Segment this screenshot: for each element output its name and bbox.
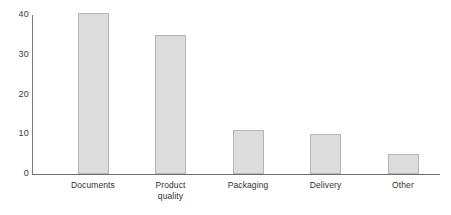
y-tick-label: 20	[3, 90, 29, 99]
bar-chart-figure: 010203040 DocumentsProductqualityPackagi…	[0, 0, 451, 215]
y-tick-10: 10	[0, 129, 29, 138]
y-tick-label: 10	[3, 129, 29, 138]
y-tick-label: 30	[3, 50, 29, 59]
bar-packaging[interactable]	[233, 130, 264, 174]
x-label-documents: Documents	[53, 180, 133, 191]
x-label-packaging: Packaging	[208, 180, 288, 191]
x-label-line: Packaging	[208, 180, 288, 191]
bar-other[interactable]	[388, 154, 419, 174]
y-tick-30: 30	[0, 50, 29, 59]
bar-documents[interactable]	[78, 13, 109, 174]
bar-delivery[interactable]	[310, 134, 341, 174]
x-label-other: Other	[363, 180, 443, 191]
x-label-line: Documents	[53, 180, 133, 191]
x-label-product-quality: Productquality	[131, 180, 211, 201]
y-tick-0: 0	[0, 169, 29, 178]
x-label-line: quality	[131, 191, 211, 202]
x-axis-line	[32, 174, 440, 175]
x-label-delivery: Delivery	[286, 180, 366, 191]
x-label-line: Other	[363, 180, 443, 191]
bar-product-quality[interactable]	[155, 35, 186, 174]
y-tick-label: 0	[3, 169, 29, 178]
y-tick-20: 20	[0, 90, 29, 99]
x-label-line: Product	[131, 180, 211, 191]
x-label-line: Delivery	[286, 180, 366, 191]
y-tick-label: 40	[3, 10, 29, 19]
y-tick-40: 40	[0, 10, 29, 19]
plot-area: 010203040 DocumentsProductqualityPackagi…	[0, 0, 451, 215]
y-axis-line	[32, 15, 33, 175]
